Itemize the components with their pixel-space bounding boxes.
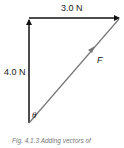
resultant-arrowhead [88, 46, 95, 53]
figure-caption: Fig. 4.1.3 Adding vectors of [12, 137, 91, 144]
resultant-label: F [97, 55, 103, 65]
vertical-vector-label: 4.0 N [4, 67, 26, 77]
resultant-vector [29, 19, 119, 123]
angle-label: θ [32, 110, 36, 120]
horizontal-vector-label: 3.0 N [61, 3, 83, 13]
